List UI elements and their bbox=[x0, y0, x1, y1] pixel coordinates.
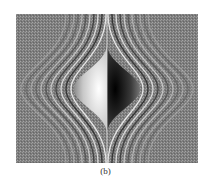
fringe-pattern-image bbox=[16, 14, 198, 163]
panel-label: (b) bbox=[0, 166, 211, 176]
fringe-pattern-graphic bbox=[16, 14, 198, 163]
